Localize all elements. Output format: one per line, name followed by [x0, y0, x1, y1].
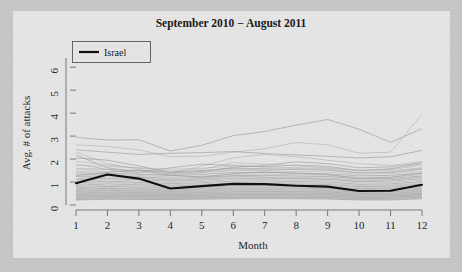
- y-tick-label: 2: [48, 160, 60, 166]
- x-tick-label: 1: [73, 219, 79, 231]
- x-tick-label: 5: [199, 219, 205, 231]
- x-tick-label: 2: [105, 219, 111, 231]
- x-tick-label: 8: [293, 219, 299, 231]
- x-tick-label: 7: [262, 219, 268, 231]
- y-tick-label: 4: [48, 113, 60, 119]
- y-tick-label: 5: [48, 91, 60, 97]
- y-axis-label: Avg. # of attacks: [20, 96, 32, 170]
- x-tick-label: 6: [231, 219, 237, 231]
- x-axis-label: Month: [238, 239, 268, 251]
- line-chart: September 2010 − August 2011 0123456 123…: [13, 11, 450, 258]
- x-tick-label: 10: [354, 219, 366, 231]
- series-line: [76, 114, 422, 157]
- figure-panel: September 2010 − August 2011 0123456 123…: [13, 11, 450, 258]
- y-tick-label: 3: [48, 136, 60, 142]
- y-axis-ticks: 0123456: [48, 67, 76, 211]
- y-tick-label: 6: [48, 68, 60, 74]
- x-tick-label: 9: [325, 219, 331, 231]
- x-tick-label: 4: [168, 219, 174, 231]
- y-tick-label: 0: [48, 205, 60, 211]
- series-line: [76, 150, 422, 158]
- series-line: [76, 164, 422, 175]
- legend-label-israel: Israel: [104, 47, 126, 58]
- x-axis-ticks: 123456789101112: [73, 210, 427, 231]
- x-tick-label: 11: [385, 219, 396, 231]
- background-series-group: [76, 114, 422, 200]
- legend[interactable]: Israel: [73, 42, 151, 63]
- chart-title: September 2010 − August 2011: [156, 17, 307, 30]
- series-line: [76, 120, 422, 151]
- x-tick-label: 12: [417, 219, 428, 231]
- page-background: September 2010 − August 2011 0123456 123…: [0, 0, 462, 272]
- x-tick-label: 3: [136, 219, 142, 231]
- y-tick-label: 1: [48, 183, 60, 189]
